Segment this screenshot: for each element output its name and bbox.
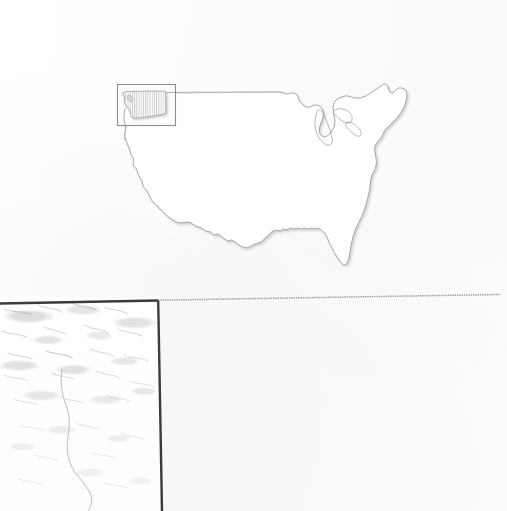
panel-horizontal-divider-right <box>158 295 500 301</box>
panel-vertical-divider <box>158 301 162 511</box>
panel-horizontal-divider-left <box>0 301 158 304</box>
map-figure: Outline map of the contiguous United Sta… <box>0 0 507 511</box>
